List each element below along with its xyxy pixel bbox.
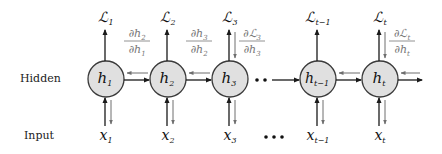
gradient-numerator: ∂h2 bbox=[128, 27, 146, 42]
loss-label-ht: ℒt bbox=[373, 9, 387, 27]
loss-label-ht-1: ℒt−1 bbox=[305, 9, 330, 27]
gradient-denominator: ∂h2 bbox=[190, 43, 208, 58]
loss-gradient-ht: ∂ℒt∂ht bbox=[389, 27, 415, 58]
hidden-node-h2: h2 bbox=[150, 61, 186, 97]
gradient-numerator: ∂h3 bbox=[190, 27, 208, 42]
hidden-node-ht: ht bbox=[362, 61, 398, 97]
input-ellipsis-dot bbox=[280, 135, 284, 139]
gradient-denominator: ∂ht bbox=[394, 43, 410, 58]
hidden-node-ht-1: ht−1 bbox=[300, 61, 336, 97]
loss-label-h1: ℒ1 bbox=[98, 9, 113, 27]
loss-label-h2: ℒ2 bbox=[160, 9, 175, 27]
loss-label-h3: ℒ3 bbox=[222, 9, 237, 27]
input-label-h1: x1 bbox=[100, 127, 113, 145]
hidden-node-h3: h3 bbox=[212, 61, 248, 97]
input-ellipsis-dot bbox=[264, 135, 268, 139]
ellipsis-dot bbox=[255, 78, 259, 82]
gradient-numerator: ∂ℒt bbox=[394, 27, 411, 42]
hidden-row-label: Hidden bbox=[20, 72, 61, 85]
loss-gradient-h3: ∂ℒ3∂h3 bbox=[239, 27, 265, 58]
ellipsis-dot bbox=[263, 78, 267, 82]
gradient-denominator: ∂h3 bbox=[243, 43, 261, 58]
gradient-numerator: ∂ℒ3 bbox=[243, 27, 262, 42]
hidden-gradient-h1-h2: ∂h2∂h1 bbox=[124, 27, 150, 58]
gradient-denominator: ∂h1 bbox=[128, 43, 145, 58]
input-label-h2: x2 bbox=[162, 127, 175, 145]
hidden-node-h1: h1 bbox=[88, 61, 124, 97]
input-label-ht-1: xt−1 bbox=[307, 127, 330, 145]
input-row-label: Input bbox=[24, 129, 55, 142]
input-label-ht: xt bbox=[374, 127, 386, 145]
input-label-h3: x3 bbox=[224, 127, 237, 145]
rnn-bptt-diagram: Hidden Input h1ℒ1x1h2ℒ2x2h3ℒ3x3ht−1ℒt−1x… bbox=[0, 0, 442, 154]
hidden-gradient-h2-h3: ∂h3∂h2 bbox=[186, 27, 212, 58]
input-ellipsis-dot bbox=[272, 135, 276, 139]
